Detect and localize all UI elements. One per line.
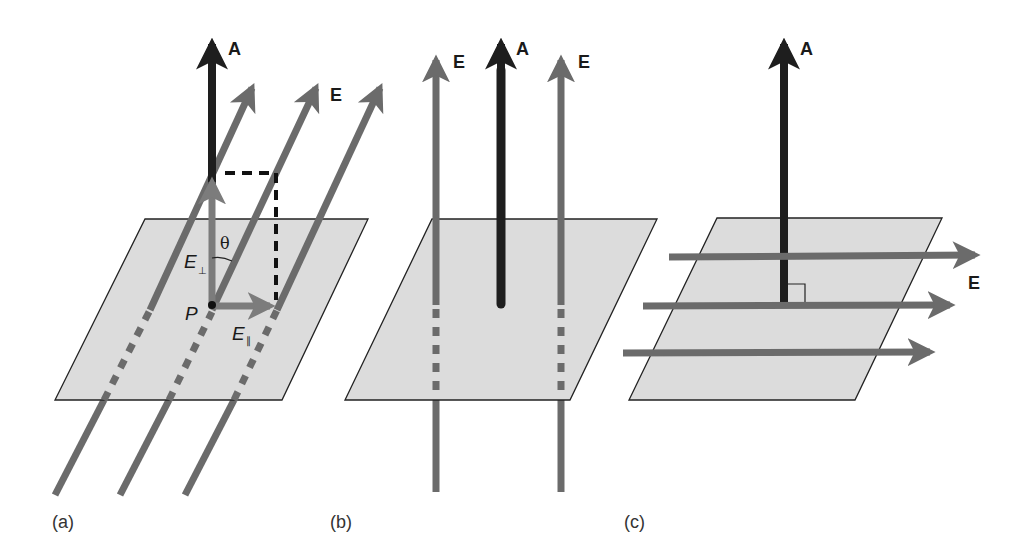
e-parallel-label: E bbox=[232, 323, 245, 344]
field-line-arrow bbox=[623, 352, 930, 353]
area-vector-label: A bbox=[228, 39, 241, 59]
angle-label: θ bbox=[220, 234, 230, 253]
area-vector-label: A bbox=[800, 39, 813, 59]
point-p-dot bbox=[208, 301, 216, 309]
e-perp-subscript: ⊥ bbox=[198, 265, 207, 276]
panel-label: (b) bbox=[330, 512, 352, 532]
panel-b: E A E (b) bbox=[330, 39, 657, 532]
electric-flux-figure: A E θ E ⊥ P E ∥ (a) E A E (b) bbox=[0, 0, 1031, 558]
field-line-below bbox=[185, 400, 234, 495]
field-label: E bbox=[330, 85, 342, 105]
field-line-below bbox=[55, 400, 104, 495]
panel-c: A E (c) bbox=[623, 39, 980, 532]
field-line-arrow bbox=[643, 305, 950, 306]
field-line-below bbox=[120, 400, 169, 495]
field-label: E bbox=[453, 52, 465, 72]
e-parallel-subscript: ∥ bbox=[246, 335, 251, 347]
area-vector-label: A bbox=[516, 39, 529, 59]
point-p-label: P bbox=[185, 303, 198, 324]
panel-label: (c) bbox=[624, 512, 645, 532]
panel-a: A E θ E ⊥ P E ∥ (a) bbox=[52, 39, 380, 532]
field-line-arrow bbox=[669, 255, 975, 257]
panel-label: (a) bbox=[52, 512, 74, 532]
field-label: E bbox=[578, 52, 590, 72]
field-label: E bbox=[968, 273, 980, 293]
e-perp-label: E bbox=[184, 251, 197, 272]
